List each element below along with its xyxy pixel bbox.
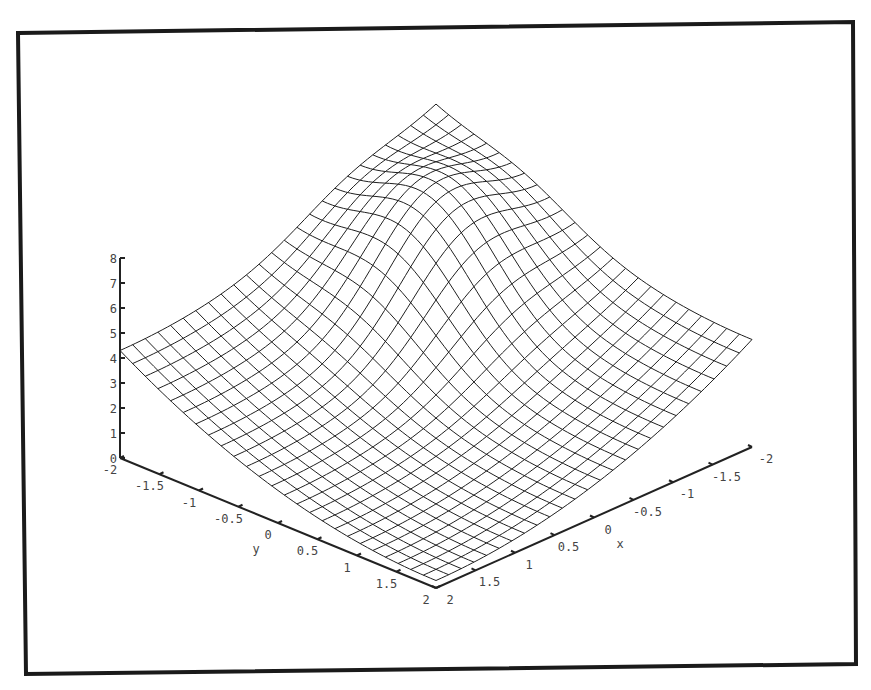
mesh-line	[196, 311, 512, 541]
x-axis-title: x	[616, 537, 623, 551]
z-tick-label: 1	[110, 427, 117, 441]
mesh-line	[360, 302, 676, 543]
mesh-line	[259, 264, 575, 499]
x-tick-label: 1	[525, 558, 532, 572]
x-tick	[630, 498, 634, 500]
y-tick	[397, 570, 401, 572]
x-tick	[432, 586, 436, 588]
z-tick-label: 0	[110, 452, 117, 466]
mesh-line	[171, 143, 487, 400]
y-tick-label: -1.5	[135, 479, 164, 493]
mesh-line	[158, 134, 474, 389]
x-tick	[748, 445, 752, 447]
mesh-line	[297, 258, 613, 504]
mesh-line	[436, 104, 752, 339]
y-tick-label: -0.5	[214, 512, 243, 526]
mesh-line	[272, 253, 588, 490]
axes	[120, 258, 752, 588]
y-tick-label: 0	[264, 528, 271, 542]
mesh-line	[297, 227, 613, 470]
y-tick	[318, 537, 322, 539]
x-tick-label: -1.5	[712, 470, 741, 484]
mesh-line	[411, 126, 727, 367]
mesh-line	[120, 104, 436, 350]
z-tick-label: 6	[110, 302, 117, 316]
z-tick-label: 5	[110, 327, 117, 341]
z-tick-label: 3	[110, 377, 117, 391]
mesh-line	[360, 165, 676, 415]
y-tick-label: 0.5	[297, 544, 319, 558]
mesh-line	[183, 153, 499, 413]
y-tick-label: -1	[182, 496, 196, 510]
x-tick	[590, 516, 594, 518]
x-tick-label: 2	[446, 593, 453, 607]
y-axis-title: y	[252, 542, 259, 556]
plot-canvas: -2-1.5-1-0.500.511.52-2-1.5-1-0.500.511.…	[0, 0, 871, 690]
x-tick	[709, 463, 713, 465]
x-tick	[472, 568, 476, 570]
x-tick-label: 0.5	[558, 540, 580, 554]
mesh-line	[221, 294, 537, 525]
mesh-line	[373, 155, 689, 404]
x-tick-label: -2	[759, 452, 773, 466]
y-tick	[278, 521, 282, 523]
y-tick	[160, 472, 164, 474]
x-tick	[551, 533, 555, 535]
x-tick-label: -1	[680, 487, 694, 501]
mesh-line	[246, 210, 562, 467]
z-tick-label: 4	[110, 352, 117, 366]
x-tick	[511, 551, 515, 553]
z-tick-label: 7	[110, 277, 117, 291]
y-tick	[357, 554, 361, 556]
y-tick-label: 2	[422, 593, 429, 607]
y-tick-label: 1.5	[376, 577, 398, 591]
z-tick-label: 8	[110, 252, 117, 266]
x-tick-label: 1.5	[479, 575, 501, 589]
z-tick-label: 2	[110, 402, 117, 416]
x-tick-label: 0	[604, 523, 611, 537]
mesh-line	[348, 295, 664, 537]
plot-border	[18, 22, 856, 674]
y-tick-label: 1	[343, 561, 350, 575]
mesh-line	[145, 125, 461, 377]
mesh-line	[234, 197, 550, 456]
y-tick	[199, 489, 203, 491]
mesh-line	[335, 287, 651, 529]
mesh-line	[221, 185, 537, 446]
y-tick	[239, 505, 243, 507]
x-tick-label: -0.5	[633, 505, 662, 519]
mesh-line	[348, 176, 664, 427]
y-tick	[436, 586, 440, 588]
x-tick	[669, 480, 673, 482]
